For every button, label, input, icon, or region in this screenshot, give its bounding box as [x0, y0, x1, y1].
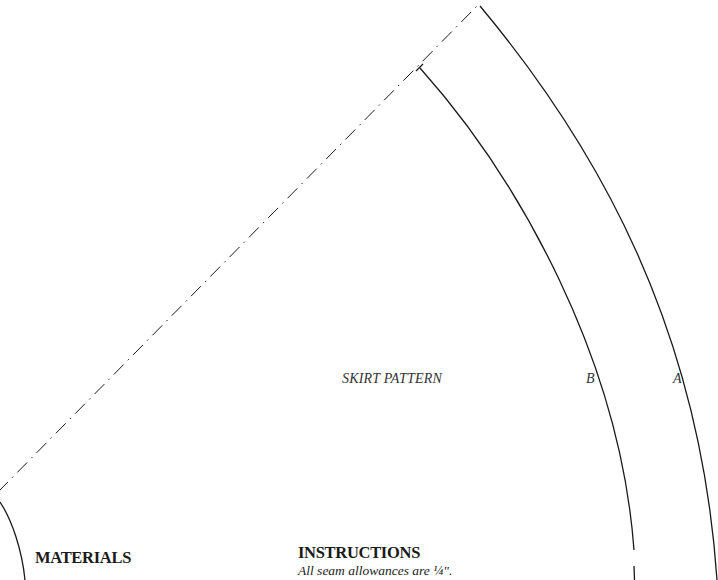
materials-heading: MATERIALS — [35, 548, 131, 568]
skirt-pattern-drawing — [0, 0, 718, 580]
waist-arc — [0, 502, 25, 580]
outer-hem-arc-a — [480, 6, 717, 580]
instructions-heading: INSTRUCTIONS — [298, 543, 420, 563]
arc-label-b: B — [586, 371, 595, 387]
inner-hem-arc-b — [420, 68, 634, 550]
fold-line — [0, 5, 478, 492]
seam-allowance-note: All seam allowances are ¼". — [298, 563, 452, 579]
pattern-title: SKIRT PATTERN — [342, 371, 442, 387]
inner-arc-b-end — [634, 566, 635, 580]
arc-label-a: A — [673, 371, 682, 387]
